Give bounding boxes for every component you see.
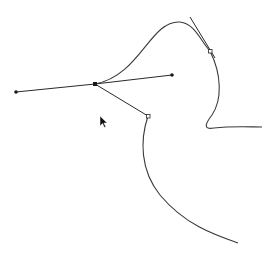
anchor-point-selected[interactable] (93, 82, 97, 86)
vector-canvas[interactable] (0, 0, 276, 256)
anchor-point-upper-right[interactable] (209, 50, 213, 54)
canvas-background (0, 0, 276, 256)
direction-point-left[interactable] (14, 90, 18, 94)
direction-point-right[interactable] (170, 73, 174, 77)
anchor-point-lower[interactable] (147, 115, 151, 119)
